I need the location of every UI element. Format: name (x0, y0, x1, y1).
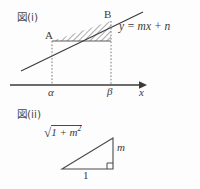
figure-ii-graphic (0, 100, 200, 189)
point-label-b: B (104, 8, 111, 20)
right-angle-marker (107, 163, 113, 169)
x-axis-label: x (139, 86, 144, 98)
triangle-base-label: 1 (83, 169, 89, 181)
tick-label-alpha: α (48, 86, 54, 98)
point-label-a: A (45, 29, 53, 41)
radicand-base: 1 + m (51, 126, 77, 138)
line-equation-label: y = mx + n (119, 20, 170, 32)
figure-page: 図(i) A B y = mx + n α β x 図(ii) √1 + (0, 0, 200, 189)
hypotenuse-label: √1 + m2 (44, 124, 82, 140)
right-triangle (62, 138, 113, 169)
shaded-region (52, 21, 111, 41)
radicand-exponent: 2 (78, 124, 82, 133)
figure-i-graphic (0, 0, 200, 100)
tick-label-beta: β (107, 85, 112, 97)
triangle-side-m-label: m (117, 141, 125, 153)
